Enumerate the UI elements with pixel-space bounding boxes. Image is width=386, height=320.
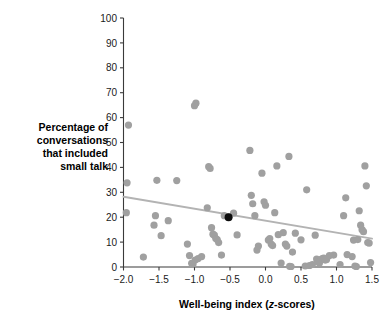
data-point (234, 231, 241, 238)
data-point (280, 229, 287, 236)
data-point (303, 186, 310, 193)
data-point (140, 253, 147, 260)
series-1-points (123, 100, 374, 271)
x-axis-title-text: Well-being index (z-scores) (179, 298, 315, 310)
x-axis-ticks: −2.0−1.5−1.0−0.50.00.51.01.5 (114, 267, 380, 285)
data-point (287, 263, 294, 270)
data-point (269, 242, 276, 249)
data-point (255, 242, 262, 249)
scatter-plot-figure: Percentage of conversations that include… (0, 0, 386, 320)
data-point (342, 194, 349, 201)
y-axis-title-line-1: Percentage of (39, 121, 109, 133)
data-point (123, 209, 130, 216)
data-point (366, 239, 373, 246)
y-tick-label: 60 (106, 112, 118, 123)
data-point (218, 251, 225, 258)
x-axis-title-part-after: -scores) (274, 298, 315, 310)
data-point (153, 177, 160, 184)
data-point (204, 204, 211, 211)
data-point (249, 200, 256, 207)
data-point (283, 242, 290, 249)
data-point (278, 259, 285, 266)
data-point (353, 263, 360, 270)
data-point (367, 259, 374, 266)
data-point (363, 182, 370, 189)
data-point (150, 222, 157, 229)
x-axis-title-part-before: Well-being index ( (179, 298, 269, 310)
x-tick-label: −0.5 (220, 274, 240, 285)
data-point (330, 251, 337, 258)
data-point (356, 207, 363, 214)
axes (124, 18, 373, 267)
scatter-chart: Percentage of conversations that include… (0, 0, 386, 320)
y-tick-label: 80 (106, 62, 118, 73)
y-axis-title: Percentage of conversations that include… (37, 121, 109, 172)
y-tick-label: 0 (111, 262, 117, 273)
y-tick-label: 100 (100, 13, 117, 24)
data-point (360, 228, 367, 235)
data-point (248, 192, 255, 199)
data-point (361, 162, 368, 169)
data-point (271, 209, 278, 216)
data-point (208, 224, 215, 231)
data-point (186, 252, 193, 259)
x-tick-label: −1.5 (149, 274, 169, 285)
y-axis-title-line-2: conversations (37, 134, 108, 146)
data-point (184, 240, 191, 247)
x-tick-label: 1.0 (330, 274, 344, 285)
y-axis-title-line-3: that included (43, 147, 108, 159)
data-point (312, 232, 319, 239)
y-tick-label: 90 (106, 38, 118, 49)
y-tick-label: 70 (106, 87, 118, 98)
axis-lines (124, 18, 373, 267)
data-point (158, 232, 165, 239)
data-point (340, 212, 347, 219)
y-tick-label: 50 (106, 137, 118, 148)
x-tick-label: 0.5 (294, 274, 308, 285)
data-point (289, 248, 296, 255)
data-point (246, 147, 253, 154)
data-point (349, 253, 356, 260)
data-point (173, 177, 180, 184)
data-point (165, 217, 172, 224)
data-point (215, 239, 222, 246)
data-point (123, 179, 130, 186)
y-tick-label: 10 (106, 237, 118, 248)
data-point (285, 153, 292, 160)
x-tick-label: 1.5 (365, 274, 379, 285)
data-point (262, 202, 269, 209)
plot-area: 0102030405060708090100−2.0−1.5−1.0−0.50.… (100, 13, 379, 285)
data-point (207, 165, 214, 172)
data-point (198, 253, 205, 260)
data-point (273, 162, 280, 169)
series-2-points (225, 213, 233, 221)
x-tick-label: 0.0 (259, 274, 273, 285)
data-point-highlighted (225, 213, 233, 221)
y-tick-label: 20 (106, 212, 118, 223)
data-point (251, 212, 258, 219)
x-tick-label: −1.0 (185, 274, 205, 285)
data-point (152, 212, 159, 219)
data-point (125, 121, 132, 128)
y-axis-title-line-4: small talk (60, 160, 108, 172)
y-tick-label: 40 (106, 162, 118, 173)
data-point (297, 236, 304, 243)
data-point (292, 230, 299, 237)
data-point (354, 236, 361, 243)
x-tick-label: −2.0 (114, 274, 134, 285)
data-point (258, 170, 265, 177)
data-point (336, 261, 343, 268)
data-point (191, 102, 198, 109)
x-axis-title: Well-being index (z-scores) (179, 298, 315, 310)
y-tick-label: 30 (106, 187, 118, 198)
